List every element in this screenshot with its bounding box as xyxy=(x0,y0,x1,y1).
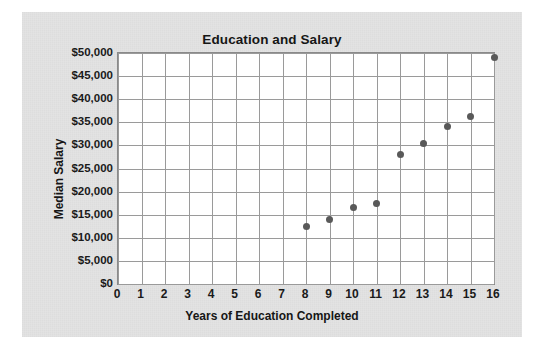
gridline-horizontal xyxy=(118,238,494,239)
gridline-horizontal xyxy=(118,99,494,100)
gridline-horizontal xyxy=(118,145,494,146)
data-point xyxy=(326,216,333,223)
y-tick-label: $35,000 xyxy=(29,115,113,127)
x-axis-tick-labels: 012345678910111213141516 xyxy=(117,287,493,305)
y-tick-label: $50,000 xyxy=(29,46,113,58)
y-tick-label: $45,000 xyxy=(29,69,113,81)
data-point xyxy=(444,123,451,130)
gridline-horizontal xyxy=(118,122,494,123)
data-point xyxy=(397,151,404,158)
plot-area xyxy=(117,52,495,285)
y-tick-label: $20,000 xyxy=(29,185,113,197)
gridline-horizontal xyxy=(118,53,494,54)
gridline-horizontal xyxy=(118,261,494,262)
y-tick-label: $40,000 xyxy=(29,92,113,104)
chart-title: Education and Salary xyxy=(22,32,522,47)
y-axis-tick-labels: $0$5,000$10,000$15,000$20,000$25,000$30,… xyxy=(22,52,113,283)
gridline-horizontal xyxy=(118,192,494,193)
y-tick-label: $30,000 xyxy=(29,138,113,150)
gridline-vertical xyxy=(494,53,495,284)
data-point xyxy=(420,140,427,147)
y-tick-label: $10,000 xyxy=(29,231,113,243)
y-tick-label: $5,000 xyxy=(29,254,113,266)
data-point xyxy=(491,54,498,61)
data-point xyxy=(303,223,310,230)
gridline-horizontal xyxy=(118,215,494,216)
x-axis-title: Years of Education Completed xyxy=(22,309,522,323)
data-point xyxy=(350,204,357,211)
gridline-horizontal xyxy=(118,76,494,77)
y-tick-label: $0 xyxy=(29,277,113,289)
gridline-horizontal xyxy=(118,169,494,170)
data-point xyxy=(467,113,474,120)
x-tick-label: 16 xyxy=(478,287,508,301)
chart-figure-panel: Education and Salary Median Salary $0$5,… xyxy=(22,12,522,337)
gridline-horizontal xyxy=(118,284,494,285)
y-tick-label: $25,000 xyxy=(29,162,113,174)
data-point xyxy=(373,200,380,207)
y-tick-label: $15,000 xyxy=(29,208,113,220)
